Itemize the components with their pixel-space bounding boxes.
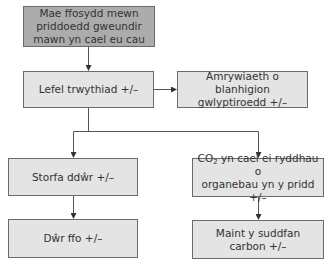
- node-water-table-level: Lefel trwythiad +/–: [23, 71, 154, 108]
- node-runoff: Dŵr ffo +/–: [8, 219, 138, 258]
- node-carbon-sink: Maint y suddfan carbon +/–: [192, 220, 324, 259]
- node-text-line: Mae ffosydd mewn: [33, 7, 145, 20]
- node-co2-release: CO2 yn cael ei ryddhau o organebau yn y …: [192, 158, 324, 197]
- node-text: Maint y suddfan carbon +/–: [197, 227, 319, 253]
- node-text-line: gwlyptiroedd +/–: [182, 96, 303, 109]
- node-ditches-blocked: Mae ffosydd mewn priddoedd gweundir mawn…: [23, 6, 155, 47]
- node-text-line: priddoedd gweundir: [33, 20, 145, 33]
- node-text-line: Amrywiaeth o blanhigion: [182, 70, 303, 96]
- node-text-line: CO2 yn cael ei ryddhau o: [197, 152, 319, 178]
- node-text-line: organebau yn y pridd +/–: [197, 178, 319, 204]
- node-water-storage: Storfa ddŵr +/–: [8, 158, 138, 196]
- co2-prefix: CO: [198, 152, 214, 164]
- node-text: Storfa ddŵr +/–: [32, 171, 114, 184]
- node-text: Lefel trwythiad +/–: [39, 83, 138, 96]
- node-plant-diversity: Amrywiaeth o blanhigion gwlyptiroedd +/–: [177, 71, 308, 108]
- node-text-line: mawn yn cael eu cau: [33, 33, 145, 46]
- co2-line-rest: yn cael ei ryddhau o: [218, 152, 319, 177]
- node-text: Dŵr ffo +/–: [44, 232, 103, 245]
